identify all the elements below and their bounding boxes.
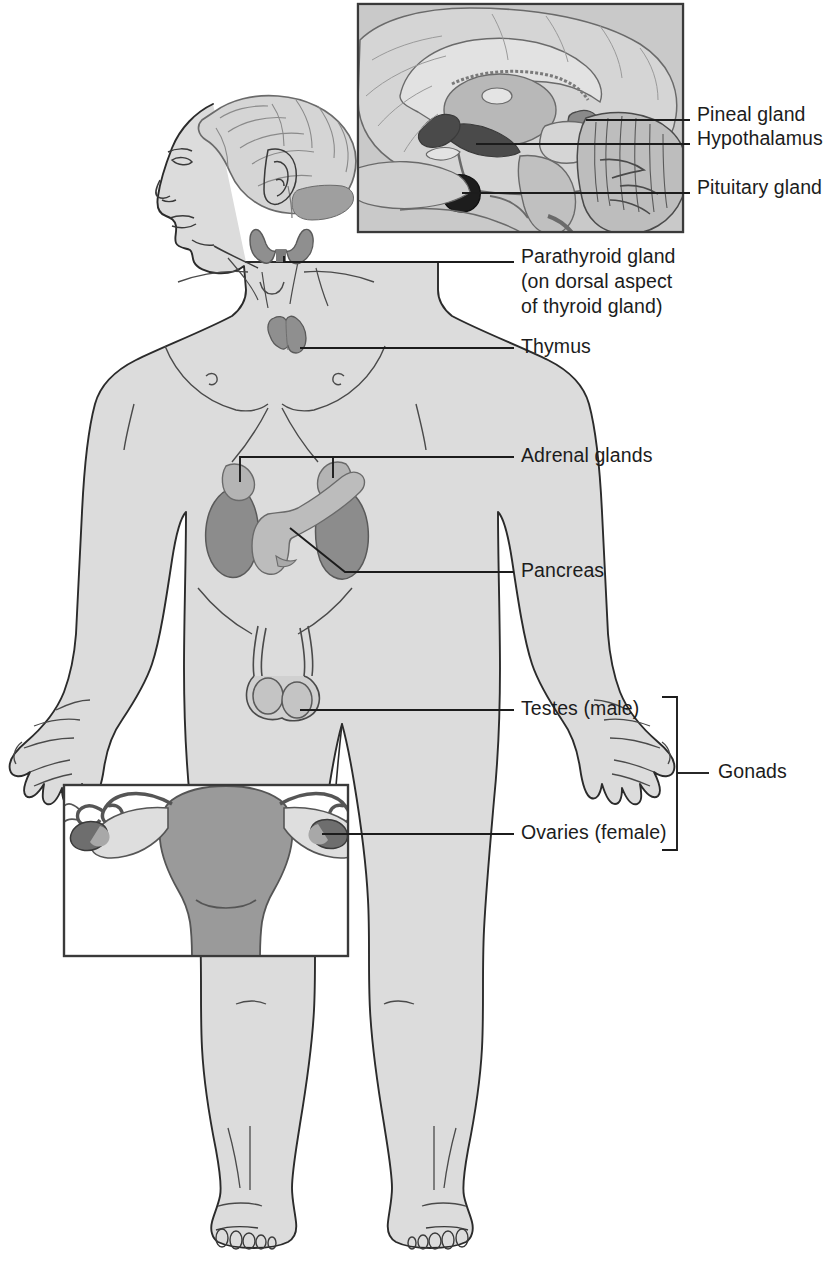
label-hypothalamus: Hypothalamus xyxy=(697,126,823,151)
label-testes: Testes (male) xyxy=(521,696,639,721)
testis-right xyxy=(282,682,312,718)
label-gonads: Gonads xyxy=(718,759,787,784)
label-pituitary-gland: Pituitary gland xyxy=(697,175,822,200)
label-pancreas: Pancreas xyxy=(521,558,604,583)
label-parathyroid-note-line1: (on dorsal aspect xyxy=(521,269,672,294)
label-parathyroid-note-line2: of thyroid gland) xyxy=(521,294,663,319)
interthalamic-adhesion xyxy=(482,88,512,104)
label-ovaries: Ovaries (female) xyxy=(521,820,667,845)
label-thymus: Thymus xyxy=(521,334,591,359)
label-parathyroid-gland: Parathyroid gland xyxy=(521,244,676,269)
cerebellum-inset xyxy=(577,113,687,235)
brain-inset xyxy=(358,4,687,248)
label-pineal-gland: Pineal gland xyxy=(697,102,806,127)
label-adrenal-glands: Adrenal glands xyxy=(521,443,653,468)
testis-left xyxy=(253,678,283,714)
